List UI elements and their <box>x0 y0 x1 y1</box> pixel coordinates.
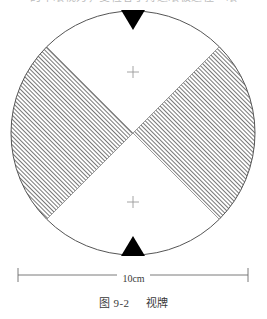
figure-caption: 图 9-2 视牌 <box>0 296 267 311</box>
figure-illustration <box>0 6 267 264</box>
vision-chart-disc-svg <box>0 6 267 264</box>
dimension-label: 10cm <box>0 273 267 284</box>
figure-caption-title: 视牌 <box>146 297 168 309</box>
dimension-line-group: 10cm <box>0 262 267 292</box>
cropped-header-text-line: 的单眼视力，受检者手持遮眼板遮住一眼 <box>0 0 267 4</box>
figure-caption-number: 图 9-2 <box>99 297 129 309</box>
dimension-label-text: 10cm <box>117 273 149 284</box>
